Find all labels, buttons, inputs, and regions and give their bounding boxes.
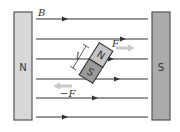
force-label-south: −F (60, 88, 76, 99)
force-label-north: F (111, 38, 120, 49)
field-arrow-icon (92, 96, 98, 101)
field-arrow-icon (62, 115, 68, 120)
magnetic-field-diagram: N S B S N l F (0, 0, 180, 132)
field-arrow-icon (62, 17, 68, 22)
length-label: l (76, 50, 79, 61)
field-arrow-icon (120, 37, 126, 42)
field-arrow-icon (114, 77, 120, 82)
left-magnet-pole-label: N (19, 62, 26, 73)
right-magnet-pole-label: S (158, 62, 164, 73)
field-label: B (37, 7, 45, 18)
